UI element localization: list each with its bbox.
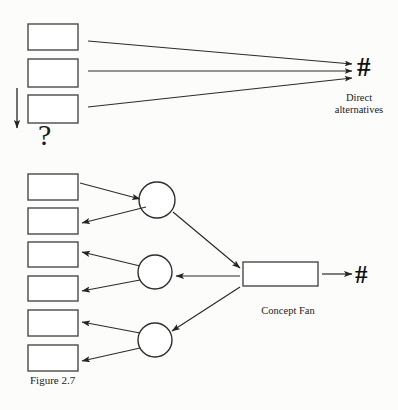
figure-canvas: # Direct alternatives ? # Concept Fan Fi… [0, 0, 398, 410]
figure-caption: Figure 2.7 [30, 374, 75, 386]
concept-node-3 [138, 323, 172, 357]
alternative-box-1 [28, 24, 78, 50]
diagram-vector-layer [0, 0, 398, 410]
top-diagram-group [17, 24, 352, 128]
converge-arrow-1 [88, 41, 352, 64]
idea-box-1 [28, 174, 78, 200]
concept-fan-box [243, 262, 318, 286]
idea-box-3 [28, 242, 78, 267]
idea-arrow-4 [82, 280, 140, 291]
fan-arrow-lower [172, 287, 240, 331]
alternative-box-2 [28, 59, 78, 87]
bottom-diagram-group [28, 174, 352, 371]
idea-box-6 [28, 345, 78, 371]
question-mark-symbol: ? [38, 120, 51, 150]
concept-node-2 [138, 255, 172, 289]
converge-arrow-3 [88, 78, 352, 107]
concept-fan-label: Concept Fan [236, 305, 340, 317]
idea-arrow-3 [82, 252, 140, 266]
idea-box-4 [28, 276, 78, 301]
idea-box-5 [28, 310, 78, 336]
idea-box-2 [28, 208, 78, 234]
alternative-box-3 [28, 95, 78, 123]
direct-target-hash-symbol: # [357, 54, 371, 81]
idea-arrow-1 [80, 183, 140, 199]
idea-arrow-6 [82, 348, 140, 361]
direct-alternatives-label: Direct alternatives [322, 92, 396, 116]
idea-arrow-5 [82, 322, 140, 333]
concept-node-1 [139, 182, 175, 218]
concept-fan-target-hash-symbol: # [355, 262, 368, 287]
fan-arrow-upper [173, 212, 240, 268]
idea-arrow-2 [82, 207, 146, 223]
